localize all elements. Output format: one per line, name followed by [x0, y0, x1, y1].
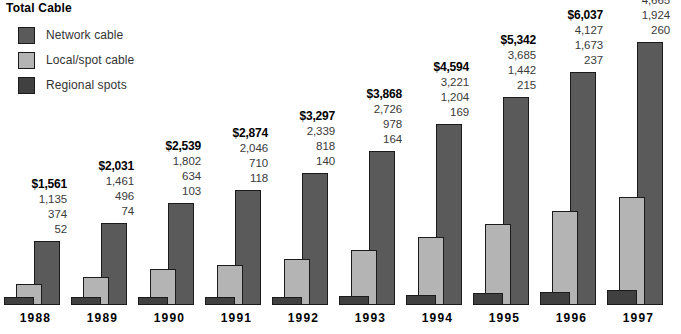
- x-tick-label-1995: 1995: [471, 311, 538, 325]
- regional-spots-value-1989: 74: [71, 204, 134, 219]
- bar-regional-spots-1989: [71, 297, 101, 305]
- x-tick-label-1991: 1991: [203, 311, 270, 325]
- value-label-group-1988: $1,5611,13537452: [4, 177, 67, 237]
- value-label-group-1992: $3,2972,339818140: [272, 109, 335, 169]
- network-cable-value-1990: 1,802: [138, 154, 201, 169]
- total-value-1993: $3,868: [339, 87, 402, 102]
- local-spot-cable-value-1996: 1,673: [540, 38, 603, 53]
- regional-spots-value-1990: 103: [138, 184, 201, 199]
- value-label-group-1993: $3,8682,726978164: [339, 87, 402, 147]
- bar-regional-spots-1991: [205, 297, 235, 305]
- bar-regional-spots-1994: [406, 295, 436, 305]
- value-label-group-1997: $6,8494,6651,924260: [607, 0, 670, 38]
- x-tick-label-1993: 1993: [337, 311, 404, 325]
- x-tick-label-1994: 1994: [404, 311, 471, 325]
- local-spot-cable-value-1989: 496: [71, 189, 134, 204]
- local-spot-cable-value-1997: 1,924: [607, 8, 670, 23]
- x-axis-line: [0, 305, 681, 306]
- bar-group-1994: $4,5943,2211,204169: [404, 0, 471, 311]
- value-label-group-1994: $4,5943,2211,204169: [406, 60, 469, 120]
- local-spot-cable-value-1993: 978: [339, 117, 402, 132]
- x-tick-label-1992: 1992: [270, 311, 337, 325]
- regional-spots-value-1991: 118: [205, 171, 268, 186]
- bar-group-1996: $6,0374,1271,673237: [538, 0, 605, 311]
- bar-group-1991: $2,8742,046710118: [203, 0, 270, 311]
- bar-group-1988: $1,5611,13537452: [2, 0, 69, 311]
- local-spot-cable-value-1992: 818: [272, 139, 335, 154]
- bar-regional-spots-1990: [138, 297, 168, 305]
- plot-area: $1,5611,13537452$2,0311,46149674$2,5391,…: [0, 0, 681, 311]
- bar-group-1989: $2,0311,46149674: [69, 0, 136, 311]
- x-tick-label-1989: 1989: [69, 311, 136, 325]
- x-tick-label-1988: 1988: [2, 311, 69, 325]
- bar-regional-spots-1993: [339, 296, 369, 305]
- network-cable-value-1991: 2,046: [205, 141, 268, 156]
- total-value-1989: $2,031: [71, 159, 134, 174]
- regional-spots-value-1988: 52: [4, 222, 67, 237]
- value-label-group-1995: $5,3423,6851,442215: [473, 33, 536, 93]
- bar-group-1993: $3,8682,726978164: [337, 0, 404, 311]
- bar-local-spot-cable-1997: [619, 197, 645, 305]
- network-cable-value-1995: 3,685: [473, 48, 536, 63]
- network-cable-value-1994: 3,221: [406, 75, 469, 90]
- local-spot-cable-value-1995: 1,442: [473, 63, 536, 78]
- bar-group-1995: $5,3423,6851,442215: [471, 0, 538, 311]
- bar-group-1992: $3,2972,339818140: [270, 0, 337, 311]
- value-label-group-1990: $2,5391,802634103: [138, 139, 201, 199]
- x-tick-label-1990: 1990: [136, 311, 203, 325]
- x-tick-label-1997: 1997: [605, 311, 672, 325]
- bar-regional-spots-1992: [272, 297, 302, 305]
- regional-spots-value-1996: 237: [540, 53, 603, 68]
- total-value-1994: $4,594: [406, 60, 469, 75]
- regional-spots-value-1993: 164: [339, 132, 402, 147]
- network-cable-value-1992: 2,339: [272, 124, 335, 139]
- value-label-group-1989: $2,0311,46149674: [71, 159, 134, 219]
- bar-group-1997: $6,8494,6651,924260: [605, 0, 672, 311]
- regional-spots-value-1994: 169: [406, 105, 469, 120]
- total-value-1992: $3,297: [272, 109, 335, 124]
- network-cable-value-1989: 1,461: [71, 174, 134, 189]
- network-cable-value-1988: 1,135: [4, 192, 67, 207]
- value-label-group-1991: $2,8742,046710118: [205, 126, 268, 186]
- bar-regional-spots-1997: [607, 290, 637, 305]
- bar-group-1990: $2,5391,802634103: [136, 0, 203, 311]
- bar-regional-spots-1995: [473, 293, 503, 305]
- bar-regional-spots-1996: [540, 292, 570, 305]
- local-spot-cable-value-1988: 374: [4, 207, 67, 222]
- total-value-1990: $2,539: [138, 139, 201, 154]
- bar-regional-spots-1988: [4, 297, 34, 305]
- value-label-group-1996: $6,0374,1271,673237: [540, 8, 603, 68]
- local-spot-cable-value-1994: 1,204: [406, 90, 469, 105]
- x-tick-label-1996: 1996: [538, 311, 605, 325]
- local-spot-cable-value-1990: 634: [138, 169, 201, 184]
- total-value-1995: $5,342: [473, 33, 536, 48]
- regional-spots-value-1997: 260: [607, 23, 670, 38]
- total-value-1996: $6,037: [540, 8, 603, 23]
- network-cable-value-1997: 4,665: [607, 0, 670, 8]
- network-cable-value-1996: 4,127: [540, 23, 603, 38]
- total-value-1991: $2,874: [205, 126, 268, 141]
- regional-spots-value-1995: 215: [473, 78, 536, 93]
- total-value-1988: $1,561: [4, 177, 67, 192]
- regional-spots-value-1992: 140: [272, 154, 335, 169]
- bar-local-spot-cable-1996: [552, 211, 578, 305]
- network-cable-value-1993: 2,726: [339, 102, 402, 117]
- local-spot-cable-value-1991: 710: [205, 156, 268, 171]
- chart-container: Total Cable Network cable Local/spot cab…: [0, 0, 681, 334]
